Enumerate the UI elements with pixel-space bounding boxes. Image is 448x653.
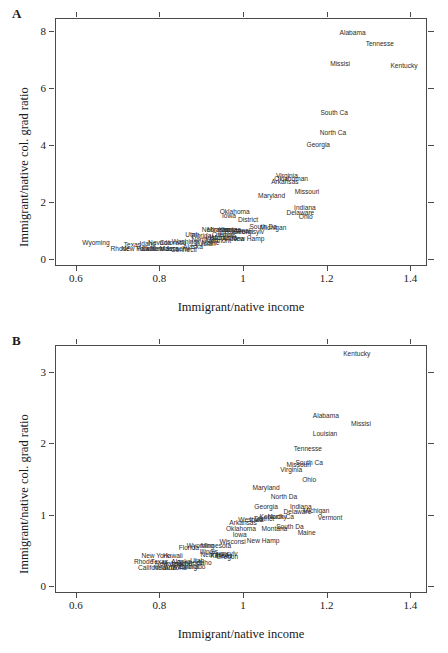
data-point-label: Missisi: [330, 61, 350, 68]
data-point-label: Alabama: [340, 30, 366, 37]
y-tick-mark: [49, 145, 54, 146]
y-tick-mark: [49, 515, 54, 516]
y-tick-mark-right: [428, 88, 434, 89]
y-tick-mark: [49, 88, 54, 89]
data-point-label: Maryland: [258, 193, 285, 200]
x-tick-label: 1: [240, 599, 246, 611]
y-tick-mark-right: [428, 443, 434, 444]
panel-b-x-axis-title: Immigrant/native income: [55, 627, 427, 642]
y-tick-mark: [49, 372, 54, 373]
data-point-label: Tennesse: [294, 446, 322, 453]
y-tick-label: 8: [20, 25, 46, 37]
y-tick-mark: [49, 202, 54, 203]
y-tick-mark: [49, 31, 54, 32]
y-tick-mark-right: [428, 586, 434, 587]
data-point-label: New Hamp: [247, 538, 280, 545]
x-tick-mark-top: [243, 12, 244, 17]
y-tick-label: 6: [20, 82, 46, 94]
data-point-label: Maryland: [253, 484, 280, 491]
y-tick-label: 1: [20, 509, 46, 521]
x-tick-mark-top: [243, 339, 244, 344]
data-point-label: Georgia: [254, 504, 277, 511]
data-point-label: Tennesse: [366, 41, 394, 48]
y-tick-mark: [49, 586, 54, 587]
x-tick-label: 0.8: [153, 272, 167, 284]
y-tick-label: 4: [20, 139, 46, 151]
data-point-label: North Ca: [320, 130, 346, 137]
data-point-label: Kentucky: [343, 350, 370, 357]
panel-a: A Immigrant/native income Immigrant/nati…: [0, 0, 448, 326]
x-tick-label: 1.2: [320, 599, 334, 611]
y-tick-label: 0: [20, 253, 46, 265]
panel-a-y-axis-title: Immigrant/native col. grad ratio: [17, 87, 32, 247]
x-tick-label: 0.6: [69, 599, 83, 611]
x-tick-mark: [159, 266, 160, 271]
data-point-label: Arkansas: [271, 179, 299, 186]
data-point-label: Louisian: [313, 431, 338, 438]
data-point-label: Wyoming: [82, 240, 109, 247]
x-tick-label: 0.8: [153, 599, 167, 611]
data-point-label: North Da: [271, 493, 297, 500]
x-tick-mark-top: [327, 339, 328, 344]
x-tick-mark-top: [159, 339, 160, 344]
x-tick-mark: [243, 266, 244, 271]
data-point-label: Pennsylv: [211, 551, 238, 558]
x-tick-mark-top: [159, 12, 160, 17]
panel-b-plot-area: [55, 345, 427, 593]
y-tick-mark: [49, 259, 54, 260]
x-tick-label: 0.6: [69, 272, 83, 284]
y-tick-label: 2: [20, 437, 46, 449]
y-tick-mark-right: [428, 259, 434, 260]
data-point-label: South Ca: [320, 109, 348, 116]
y-tick-mark-right: [428, 202, 434, 203]
x-tick-label: 1.2: [320, 272, 334, 284]
panel-a-x-axis-title: Immigrant/native income: [55, 300, 427, 315]
data-point-label: West Vir: [238, 517, 263, 524]
x-tick-mark-top: [410, 339, 411, 344]
y-tick-mark-right: [428, 145, 434, 146]
y-tick-label: 3: [20, 366, 46, 378]
x-tick-mark-top: [76, 339, 77, 344]
data-point-label: Ohio: [302, 477, 316, 484]
data-point-label: Ohio: [299, 214, 313, 221]
x-tick-mark: [159, 593, 160, 598]
x-tick-mark: [410, 593, 411, 598]
data-point-label: Florida: [179, 545, 199, 552]
x-tick-mark: [243, 593, 244, 598]
x-tick-mark: [76, 593, 77, 598]
data-point-label: Missisi: [351, 421, 371, 428]
x-tick-mark-top: [76, 12, 77, 17]
y-tick-mark: [49, 443, 54, 444]
y-tick-label: 0: [20, 580, 46, 592]
data-point-label: Connecti: [177, 560, 203, 567]
x-tick-mark: [327, 266, 328, 271]
data-point-label: Iowa: [222, 212, 236, 219]
data-point-label: North Da: [191, 237, 217, 244]
data-point-label: Kentucky: [390, 62, 417, 69]
data-point-label: Alabama: [313, 412, 339, 419]
data-point-label: New Hamp: [232, 236, 265, 243]
data-point-label: Virginia: [280, 466, 302, 473]
data-point-label: Vermont: [318, 515, 343, 522]
panel-b-letter: B: [12, 333, 21, 349]
panel-b: B Immigrant/native income Immigrant/nati…: [0, 327, 448, 653]
y-tick-mark-right: [428, 31, 434, 32]
x-tick-label: 1.4: [403, 599, 417, 611]
x-tick-mark: [410, 266, 411, 271]
x-tick-label: 1: [240, 272, 246, 284]
x-tick-mark-top: [410, 12, 411, 17]
y-tick-mark-right: [428, 372, 434, 373]
x-tick-label: 1.4: [403, 272, 417, 284]
x-tick-mark: [76, 266, 77, 271]
x-tick-mark-top: [327, 12, 328, 17]
y-tick-label: 2: [20, 196, 46, 208]
x-tick-mark: [327, 593, 328, 598]
data-point-label: Georgia: [307, 141, 330, 148]
panel-a-letter: A: [12, 6, 22, 22]
data-point-label: Maine: [298, 530, 316, 537]
data-point-label: Missouri: [295, 188, 320, 195]
y-tick-mark-right: [428, 515, 434, 516]
